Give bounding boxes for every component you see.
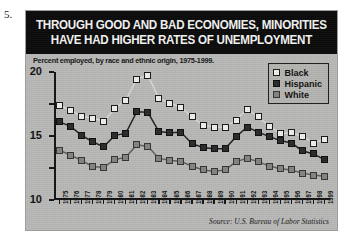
data-point-black [89,115,96,122]
data-point-black [78,113,85,120]
y-tick-label: 20 [30,65,42,77]
data-point-black [211,124,218,131]
data-point-black [288,129,295,136]
data-point-white [177,158,184,165]
x-tick-label: 1978 [95,191,102,204]
data-point-white [288,166,295,173]
data-point-white [255,158,262,165]
data-point-hispanic [277,137,284,144]
x-tick [180,200,181,204]
data-point-white [133,141,140,148]
x-tick-label: 1988 [206,191,213,204]
y-tick-label: 15 [30,129,42,141]
legend-label: White [284,90,309,100]
data-point-white [67,152,74,159]
x-tick-label: 1976 [73,191,80,204]
x-tick [302,200,303,204]
data-point-hispanic [144,109,151,116]
x-tick-label: 1997 [305,191,312,204]
legend-swatch-icon [273,91,280,98]
legend-item-hispanic[interactable]: Hispanic [273,78,322,89]
data-point-white [56,147,63,154]
x-tick-label: 1981 [128,191,135,204]
x-tick [92,200,93,204]
figure-container: 5. THROUGH GOOD AND BAD ECONOMIES, MINOR… [0,0,341,248]
data-point-hispanic [321,156,328,163]
x-tick [313,200,314,204]
chart-title-banner: THROUGH GOOD AND BAD ECONOMIES, MINORITI… [26,11,337,54]
data-point-hispanic [100,143,107,150]
x-tick-label: 1990 [228,191,235,204]
x-tick [169,200,170,204]
data-point-black [122,97,129,104]
data-point-black [233,117,240,124]
data-point-white [321,173,328,180]
x-tick-label: 1991 [239,191,246,204]
data-point-hispanic [222,145,229,152]
data-point-white [111,156,118,163]
data-point-black [166,100,173,107]
y-tick: 0 [49,199,54,200]
x-tick-label: 1983 [150,191,157,204]
data-point-black [266,123,273,130]
x-tick [103,200,104,204]
data-point-hispanic [166,129,173,136]
legend-item-black[interactable]: Black [273,67,322,78]
data-point-black [310,140,317,147]
data-point-black [155,95,162,102]
x-tick [125,200,126,204]
data-point-white [233,158,240,165]
data-point-hispanic [244,124,251,131]
data-point-black [100,118,107,125]
data-point-white [299,170,306,177]
x-tick [191,200,192,204]
data-point-black [189,113,196,120]
data-point-black [277,130,284,137]
x-tick-label: 1994 [272,191,279,204]
data-point-hispanic [111,132,118,139]
data-point-hispanic [177,129,184,136]
legend-label: Hispanic [284,79,322,89]
x-tick-label: 1979 [106,191,113,204]
x-tick-label: 1995 [283,191,290,204]
x-tick [269,200,270,204]
x-tick-label: 1984 [161,191,168,204]
x-tick [136,200,137,204]
x-tick [324,200,325,204]
chart-title-line-1: THROUGH GOOD AND BAD ECONOMIES, MINORITI… [36,18,327,33]
data-point-white [244,155,251,162]
data-point-hispanic [211,145,218,152]
x-tick [236,200,237,204]
x-tick [81,200,82,204]
x-tick-label: 1980 [117,191,124,204]
x-tick [70,200,71,204]
y-axis [54,72,56,200]
data-point-white [310,172,317,179]
data-point-black [177,104,184,111]
x-tick [158,200,159,204]
x-tick-label: 1999 [327,191,334,204]
data-point-white [155,155,162,162]
x-tick-label: 1992 [250,191,257,204]
data-point-hispanic [189,140,196,147]
x-tick [59,200,60,204]
data-point-hispanic [67,123,74,130]
data-point-hispanic [310,150,317,157]
data-point-white [144,143,151,150]
data-point-hispanic [288,140,295,147]
x-tick-label: 1975 [62,191,69,204]
x-tick-label: 1989 [217,191,224,204]
data-point-white [89,163,96,170]
data-point-hispanic [56,118,63,125]
chart-legend: BlackHispanicWhite [268,63,329,104]
legend-label: Black [284,68,308,78]
x-tick [291,200,292,204]
legend-item-white[interactable]: White [273,89,322,100]
data-point-black [56,102,63,109]
item-number-label: 5. [4,8,12,20]
source-note: Source: U.S. Bureau of Labor Statistics [209,217,329,226]
y-tick-label: 10 [30,193,42,205]
data-point-black [200,122,207,129]
data-point-black [255,113,262,120]
x-tick-label: 1998 [316,191,323,204]
